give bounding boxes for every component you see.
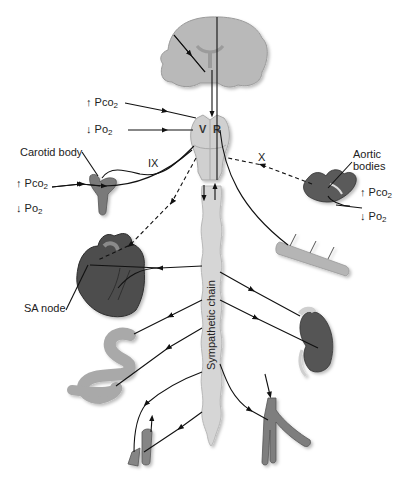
diagram-stage: V R xyxy=(0,0,410,485)
carotid-body-label: Carotid body xyxy=(20,146,82,158)
blood-vessel-right-illustration xyxy=(262,398,311,465)
blood-vessel-left-illustration xyxy=(128,429,152,466)
carotid-po2-label: ↓ Po2 xyxy=(16,202,42,218)
sympathetic-chain-label: Sympathetic chain xyxy=(205,280,217,370)
sa-node-label: SA node xyxy=(24,302,66,314)
brain-illustration xyxy=(161,17,268,87)
skeletal-muscle-illustration xyxy=(276,234,349,276)
nerve-ix-label: IX xyxy=(148,157,158,169)
aortic-bodies-label-1: Aortic xyxy=(353,148,381,160)
heart-illustration xyxy=(77,233,145,316)
aortic-po2-label: ↓ Po2 xyxy=(360,210,386,226)
aortic-bodies-label-2: bodies xyxy=(353,160,385,172)
kidney-illustration xyxy=(300,309,333,376)
central-po2-label: ↓ Po2 xyxy=(86,123,112,139)
carotid-body-illustration xyxy=(90,174,117,215)
nerve-x-label: X xyxy=(258,151,265,163)
medulla-illustration xyxy=(191,115,230,180)
carotid-pco2-label: ↑ Pco2 xyxy=(16,177,48,193)
intestine-illustration xyxy=(72,334,130,398)
aortic-pco2-label: ↑ Pco2 xyxy=(360,186,392,202)
central-pco2-label: ↑ Pco2 xyxy=(86,96,118,112)
medulla-v-label: V xyxy=(199,123,207,135)
